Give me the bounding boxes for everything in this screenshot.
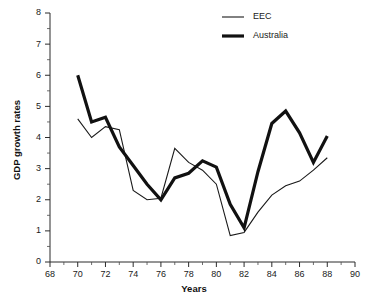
y-axis-tick-labels: 012345678 — [36, 7, 41, 266]
x-axis-title: Years — [181, 283, 206, 294]
y-tick-label: 7 — [36, 39, 41, 49]
x-tick-label: 90 — [350, 269, 360, 279]
y-axis-group: 012345678 — [36, 7, 50, 266]
series-line-australia — [78, 75, 328, 228]
x-tick-label: 72 — [100, 269, 110, 279]
y-tick-label: 0 — [36, 256, 41, 266]
x-axis-tick-labels: 687072747678808284868890 — [45, 269, 360, 279]
chart-plot-area: 012345678 687072747678808284868890 EECAu… — [0, 0, 389, 303]
y-axis-title: GDP growth rates — [11, 100, 22, 180]
x-axis-group: 687072747678808284868890 — [45, 262, 360, 279]
x-tick-label: 86 — [295, 269, 305, 279]
y-axis-ticks — [45, 13, 50, 262]
x-tick-label: 76 — [156, 269, 166, 279]
legend-label-australia: Australia — [253, 30, 288, 40]
y-tick-label: 6 — [36, 70, 41, 80]
x-tick-label: 70 — [73, 269, 83, 279]
x-tick-label: 78 — [184, 269, 194, 279]
x-tick-label: 80 — [211, 269, 221, 279]
x-tick-label: 88 — [322, 269, 332, 279]
gdp-growth-rates-chart: 012345678 687072747678808284868890 EECAu… — [0, 0, 389, 303]
legend-label-eec: EEC — [253, 11, 272, 21]
x-axis-ticks — [50, 262, 355, 267]
chart-legend: EECAustralia — [222, 11, 288, 40]
data-series-group — [78, 75, 328, 235]
y-tick-label: 2 — [36, 194, 41, 204]
y-tick-label: 1 — [36, 225, 41, 235]
x-tick-label: 74 — [128, 269, 138, 279]
y-tick-label: 4 — [36, 132, 41, 142]
x-tick-label: 84 — [267, 269, 277, 279]
x-tick-label: 82 — [239, 269, 249, 279]
x-tick-label: 68 — [45, 269, 55, 279]
y-tick-label: 3 — [36, 163, 41, 173]
y-tick-label: 8 — [36, 7, 41, 17]
y-tick-label: 5 — [36, 101, 41, 111]
